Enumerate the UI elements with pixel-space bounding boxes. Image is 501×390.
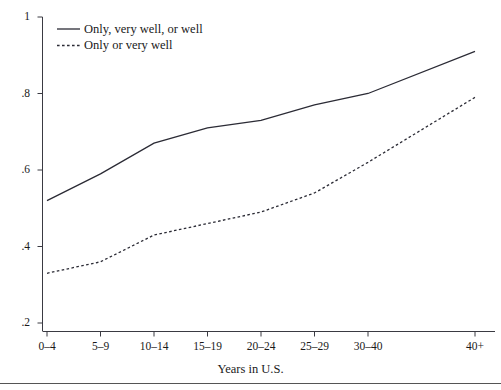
x-tick-label: 40+ bbox=[445, 341, 501, 353]
x-tick-label: 20–24 bbox=[231, 341, 291, 353]
legend-label-0: Only, very well, or well bbox=[84, 23, 203, 36]
series-line-solid bbox=[47, 51, 475, 200]
y-axis-ticks bbox=[38, 17, 43, 323]
y-tick-label: .4 bbox=[4, 241, 30, 253]
figure-container: 1.8.6.4.2 0–45–910–1415–1920–2425–2930–4… bbox=[0, 0, 501, 390]
x-tick-label: 25–29 bbox=[285, 341, 345, 353]
x-tick-label: 15–19 bbox=[178, 341, 238, 353]
series-line-dotted bbox=[47, 97, 475, 273]
y-tick-label: 1 bbox=[4, 11, 30, 23]
x-axis-title: Years in U.S. bbox=[0, 362, 501, 377]
x-tick-label: 5–9 bbox=[71, 341, 131, 353]
x-tick-label: 0–4 bbox=[17, 341, 77, 353]
x-tick-label: 10–14 bbox=[124, 341, 184, 353]
legend-label-1: Only or very well bbox=[84, 39, 173, 52]
y-tick-label: .8 bbox=[4, 88, 30, 100]
y-tick-label: .6 bbox=[4, 164, 30, 176]
bottom-divider bbox=[0, 383, 501, 384]
series-group bbox=[47, 51, 475, 273]
y-tick-label: .2 bbox=[4, 317, 30, 329]
x-axis-ticks bbox=[47, 332, 475, 337]
line-chart-plot bbox=[0, 0, 501, 390]
legend-swatches bbox=[57, 29, 80, 46]
x-tick-label: 30–40 bbox=[338, 341, 398, 353]
axes-group bbox=[38, 17, 496, 337]
